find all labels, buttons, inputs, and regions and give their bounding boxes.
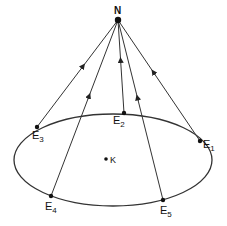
arrow-icon [88,96,89,100]
arrow-icon [82,66,84,68]
arrow-icon [153,72,155,74]
point-e4 [49,194,53,198]
cone-lines [37,20,200,200]
line-e3-to-n [37,20,118,127]
point-e5 [161,198,165,202]
center-label: K [110,155,116,165]
line-e1-to-n [118,20,200,141]
point-e1 [198,139,202,143]
label-e5: E5 [160,204,172,219]
e-points: E1E2E3E4E5 [32,111,215,219]
line-e4-to-n [51,20,118,196]
point-e2 [122,111,126,115]
label-e2: E2 [113,114,125,129]
arrow-icon [137,97,138,101]
cone-diagram: N K E1E2E3E4E5 [0,0,227,226]
center-point-k [104,157,108,161]
label-e4: E4 [45,200,57,215]
label-e1: E1 [203,138,215,153]
label-e3: E3 [32,129,44,144]
apex-point-n [115,17,121,23]
line-e5-to-n [118,20,163,200]
apex-label: N [114,5,121,16]
